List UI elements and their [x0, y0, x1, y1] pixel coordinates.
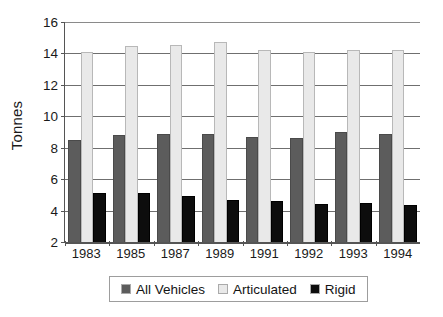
- legend-swatch-icon: [121, 284, 131, 294]
- bar: [303, 52, 316, 242]
- legend-label: Rigid: [325, 282, 356, 297]
- legend-item[interactable]: All Vehicles: [121, 282, 205, 297]
- y-tick-label: 2: [50, 235, 58, 250]
- bar: [157, 134, 170, 242]
- x-tick-label: 1985: [109, 246, 154, 261]
- x-tick-label: 1993: [331, 246, 376, 261]
- bar-group: [376, 22, 420, 242]
- bar: [68, 140, 81, 242]
- bar: [347, 50, 360, 242]
- bar: [360, 203, 373, 242]
- plot-area: 246810121416: [64, 22, 420, 242]
- bar: [290, 138, 303, 242]
- x-tick-label: 1992: [287, 246, 332, 261]
- bar: [227, 200, 240, 242]
- y-tick-label: 6: [50, 172, 58, 187]
- bar: [379, 134, 392, 242]
- legend-label: All Vehicles: [136, 282, 205, 297]
- bar: [113, 135, 126, 242]
- y-tick-label: 16: [43, 15, 58, 30]
- bar-group: [65, 22, 109, 242]
- legend-label: Articulated: [233, 282, 297, 297]
- bar: [202, 134, 215, 242]
- x-tick-label: 1987: [153, 246, 198, 261]
- y-axis-title-label: Tonnes: [9, 100, 26, 150]
- x-tick-label: 1991: [242, 246, 287, 261]
- bar: [335, 132, 348, 242]
- bar: [258, 50, 271, 242]
- legend-swatch-icon: [218, 284, 228, 294]
- y-axis-title: Tonnes: [2, 0, 32, 250]
- bar-group: [331, 22, 375, 242]
- bar: [404, 205, 417, 242]
- legend-item[interactable]: Rigid: [310, 282, 356, 297]
- bar: [246, 137, 259, 242]
- bar: [93, 193, 106, 242]
- bar: [182, 196, 195, 242]
- bar-group: [109, 22, 153, 242]
- bar: [315, 204, 328, 243]
- chart-legend: All VehiclesArticulatedRigid: [109, 276, 368, 302]
- x-tick-label: 1983: [64, 246, 109, 261]
- bar-group: [243, 22, 287, 242]
- x-axis-labels: 19831985198719891991199219931994: [64, 246, 420, 261]
- y-tick-label: 10: [43, 109, 58, 124]
- bar: [81, 52, 94, 242]
- bar-group: [287, 22, 331, 242]
- bar-group: [198, 22, 242, 242]
- y-tick-label: 14: [43, 46, 58, 61]
- bar: [214, 42, 227, 242]
- y-tick-label: 4: [50, 203, 58, 218]
- bar: [271, 201, 284, 242]
- x-tick-label: 1994: [376, 246, 421, 261]
- y-tick-label: 8: [50, 140, 58, 155]
- bar-group: [154, 22, 198, 242]
- bars-layer: [65, 22, 420, 242]
- bar: [125, 46, 138, 242]
- legend-item[interactable]: Articulated: [218, 282, 297, 297]
- bar: [392, 50, 405, 243]
- bar-chart: Tonnes 246810121416 19831985198719891991…: [0, 0, 443, 317]
- y-tick-label: 12: [43, 77, 58, 92]
- bar: [170, 45, 183, 242]
- legend-swatch-icon: [310, 284, 320, 294]
- x-tick-label: 1989: [198, 246, 243, 261]
- bar: [138, 193, 151, 242]
